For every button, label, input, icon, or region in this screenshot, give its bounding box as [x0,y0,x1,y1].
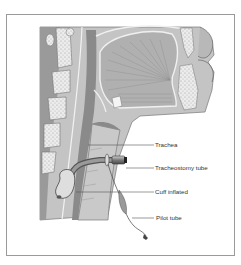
hyoid [112,96,122,108]
label-trachea: Trachea [155,142,177,148]
tongue [100,32,178,108]
label-cuff-inflated: Cuff inflated [155,189,188,195]
label-pilot-tube: Pilot tube [156,215,182,221]
label-tracheostomy-tube: Tracheostomy tube [155,165,208,171]
anatomy-illustration [0,0,241,265]
